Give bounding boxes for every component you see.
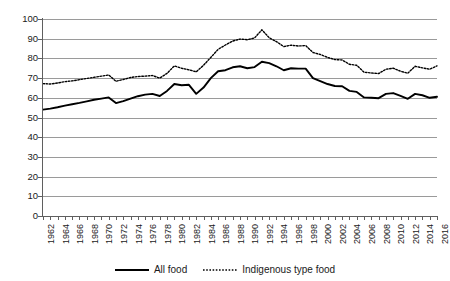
- x-tick-label: 1988: [237, 224, 246, 244]
- x-tick-label: 1976: [149, 224, 158, 244]
- solid-line-icon: [115, 266, 149, 274]
- x-tick-label: 1998: [310, 224, 319, 244]
- x-tick-label: 1962: [47, 224, 56, 244]
- x-tick-mark: [408, 216, 409, 220]
- x-tick-mark: [65, 216, 66, 220]
- x-tick-label: 1970: [105, 224, 114, 244]
- x-tick-mark: [160, 216, 161, 220]
- x-tick-mark: [320, 216, 321, 220]
- x-tick-mark: [364, 216, 365, 220]
- x-tick-mark: [43, 216, 44, 220]
- x-tick-mark: [123, 216, 124, 220]
- x-tick-mark: [131, 216, 132, 220]
- x-tick-mark: [328, 216, 329, 220]
- x-tick-label: 1974: [135, 224, 144, 244]
- x-tick-mark: [379, 216, 380, 220]
- x-tick-mark: [349, 216, 350, 220]
- legend-label: Indigenous type food: [242, 265, 335, 275]
- x-tick-label: 2006: [368, 224, 377, 244]
- x-tick-label: 2000: [324, 224, 333, 244]
- x-tick-label: 2008: [383, 224, 392, 244]
- x-tick-mark: [437, 216, 438, 220]
- line-chart: 0102030405060708090100 19621964196619681…: [0, 0, 450, 281]
- chart-legend: All foodIndigenous type food: [0, 262, 450, 278]
- x-tick-label: 2016: [441, 224, 450, 244]
- x-tick-mark: [371, 216, 372, 220]
- x-tick-mark: [138, 216, 139, 220]
- x-tick-mark: [167, 216, 168, 220]
- x-tick-mark: [422, 216, 423, 220]
- x-tick-mark: [255, 216, 256, 220]
- x-tick-mark: [284, 216, 285, 220]
- legend-item[interactable]: Indigenous type food: [203, 265, 335, 275]
- x-tick-mark: [233, 216, 234, 220]
- x-tick-label: 1968: [91, 224, 100, 244]
- x-tick-mark: [87, 216, 88, 220]
- x-tick-mark: [291, 216, 292, 220]
- x-tick-label: 1984: [208, 224, 217, 244]
- x-tick-mark: [269, 216, 270, 220]
- x-tick-mark: [240, 216, 241, 220]
- x-tick-mark: [298, 216, 299, 220]
- x-tick-mark: [152, 216, 153, 220]
- x-tick-mark: [218, 216, 219, 220]
- x-tick-mark: [306, 216, 307, 220]
- x-tick-label: 1978: [164, 224, 173, 244]
- x-tick-label: 2002: [339, 224, 348, 244]
- x-tick-mark: [204, 216, 205, 220]
- x-tick-label: 2010: [397, 224, 406, 244]
- x-tick-mark: [94, 216, 95, 220]
- legend-item[interactable]: All food: [115, 265, 187, 275]
- x-tick-label: 1972: [120, 224, 129, 244]
- x-tick-mark: [174, 216, 175, 220]
- x-tick-label: 1980: [178, 224, 187, 244]
- x-tick-mark: [262, 216, 263, 220]
- x-tick-mark: [50, 216, 51, 220]
- x-tick-mark: [72, 216, 73, 220]
- x-tick-mark: [335, 216, 336, 220]
- x-tick-label: 2012: [412, 224, 421, 244]
- x-tick-label: 1982: [193, 224, 202, 244]
- x-tick-mark: [58, 216, 59, 220]
- x-tick-mark: [247, 216, 248, 220]
- x-tick-mark: [182, 216, 183, 220]
- x-tick-label: 1986: [222, 224, 231, 244]
- x-tick-label: 1990: [251, 224, 260, 244]
- x-tick-mark: [276, 216, 277, 220]
- x-tick-label: 1994: [280, 224, 289, 244]
- x-tick-label: 2004: [353, 224, 362, 244]
- x-tick-mark: [357, 216, 358, 220]
- x-tick-mark: [342, 216, 343, 220]
- x-tick-label: 1996: [295, 224, 304, 244]
- x-tick-mark: [415, 216, 416, 220]
- x-tick-mark: [401, 216, 402, 220]
- x-tick-mark: [225, 216, 226, 220]
- x-tick-mark: [386, 216, 387, 220]
- x-tick-mark: [109, 216, 110, 220]
- x-tick-mark: [196, 216, 197, 220]
- legend-label: All food: [154, 265, 187, 275]
- x-tick-mark: [211, 216, 212, 220]
- x-tick-label: 1964: [62, 224, 71, 244]
- x-tick-mark: [189, 216, 190, 220]
- x-tick-mark: [393, 216, 394, 220]
- x-axis-labels: 1962196419661968197019721974197619781980…: [0, 0, 450, 281]
- x-tick-label: 1992: [266, 224, 275, 244]
- x-tick-mark: [101, 216, 102, 220]
- x-tick-label: 2014: [426, 224, 435, 244]
- x-tick-mark: [79, 216, 80, 220]
- x-tick-mark: [313, 216, 314, 220]
- x-tick-mark: [116, 216, 117, 220]
- x-tick-mark: [145, 216, 146, 220]
- dotted-line-icon: [203, 266, 237, 274]
- x-tick-label: 1966: [76, 224, 85, 244]
- x-tick-mark: [430, 216, 431, 220]
